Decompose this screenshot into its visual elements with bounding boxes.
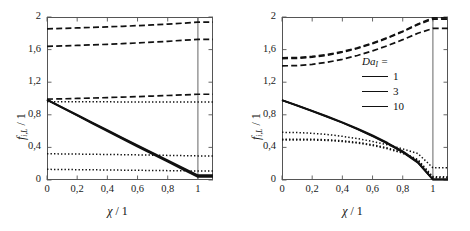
legend-entry: 10 (362, 101, 404, 112)
y-tick-label: 0 (3, 173, 41, 184)
plot-area-left (47, 17, 213, 180)
x-tick-label: 1 (413, 183, 453, 194)
curve-dashed-DaI-10 (282, 18, 448, 58)
curve-dotted-DaI-10 (282, 140, 448, 178)
x-axis-title-left: χ / 1 (0, 204, 235, 219)
legend-line-swatch (362, 76, 388, 77)
plot-curves-left (47, 17, 213, 180)
legend-entry-label: 3 (393, 86, 399, 97)
y-tick-label: 1,6 (238, 43, 276, 54)
y-tick-label: 2 (238, 10, 276, 21)
legend-title: DaI = (362, 55, 404, 67)
curve-solid-DaI-1 (47, 99, 213, 175)
y-tick-label: 0,4 (3, 140, 41, 151)
curve-dotted-DaI-1 (282, 132, 448, 167)
curve-dashed-upper-DaI-10 (47, 22, 213, 29)
y-tick-label: 2 (3, 10, 41, 21)
curve-dashed-mid-DaI-3 (47, 39, 213, 46)
y-tick-label: 1,2 (238, 75, 276, 86)
y-tick-label: 1,2 (3, 75, 41, 86)
legend-right: DaI = 1310 (362, 55, 404, 112)
x-tick-label: 1 (178, 183, 218, 194)
legend-line-swatch (362, 91, 388, 92)
figure-root: 00,20,40,60,81 00,40,81,21,62 χ / 1 fi,L… (0, 0, 470, 231)
chart-panel-right: DaI = 1310 00,20,40,60,81 00,40,81,21,62… (235, 0, 470, 231)
y-axis-title-left: fi,L / 1 (14, 113, 29, 140)
legend-entries: 1310 (362, 71, 404, 112)
legend-entry: 1 (362, 71, 404, 82)
curve-dotted-DaI-3 (282, 139, 448, 177)
plot-area-right: DaI = 1310 (282, 17, 448, 180)
y-tick-label: 1,6 (3, 43, 41, 54)
chart-panel-left: 00,20,40,60,81 00,40,81,21,62 χ / 1 fi,L… (0, 0, 235, 231)
legend-line-swatch (362, 106, 388, 107)
legend-entry-label: 10 (393, 101, 404, 112)
curve-dotted-mid-DaI-3 (47, 154, 213, 156)
y-tick-label: 0 (238, 173, 276, 184)
y-axis-title-right: fi,L / 1 (249, 113, 264, 140)
legend-entry-label: 1 (393, 71, 399, 82)
x-axis-title-right: χ / 1 (235, 204, 470, 219)
curve-dashed-low-DaI-1 (47, 94, 213, 99)
y-tick-label: 0,4 (238, 140, 276, 151)
legend-entry: 3 (362, 86, 404, 97)
curve-solid-DaI-3 (47, 100, 213, 176)
